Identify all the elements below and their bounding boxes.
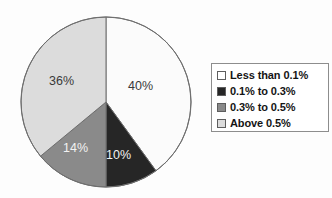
legend-swatch-icon	[217, 87, 226, 96]
legend-item-label: Less than 0.1%	[230, 69, 308, 81]
legend-item-label: 0.3% to 0.5%	[230, 101, 295, 113]
pie-slice-label: 40%	[128, 79, 153, 93]
legend-swatch-icon	[217, 103, 226, 112]
pie-slice-label: 14%	[63, 141, 88, 155]
legend-item-0-1-to-0-3[interactable]: 0.1% to 0.3%	[217, 83, 328, 99]
legend-item-0-3-to-0-5[interactable]: 0.3% to 0.5%	[217, 99, 328, 115]
pie-slice-label: 36%	[49, 74, 74, 88]
legend-item-label: Above 0.5%	[230, 117, 291, 129]
pie-chart-figure: 40%10%14%36% Less than 0.1% 0.1% to 0.3%…	[0, 0, 332, 198]
pie-plot-area: 40%10%14%36%	[0, 0, 212, 198]
legend-swatch-icon	[217, 119, 226, 128]
pie-slice-label: 10%	[106, 148, 131, 162]
legend-item-less-than-0-1[interactable]: Less than 0.1%	[217, 67, 328, 83]
legend-swatch-icon	[217, 71, 226, 80]
legend-item-above-0-5[interactable]: Above 0.5%	[217, 115, 328, 131]
pie-svg	[0, 0, 212, 198]
legend-item-label: 0.1% to 0.3%	[230, 85, 295, 97]
chart-legend: Less than 0.1% 0.1% to 0.3% 0.3% to 0.5%…	[211, 63, 329, 132]
